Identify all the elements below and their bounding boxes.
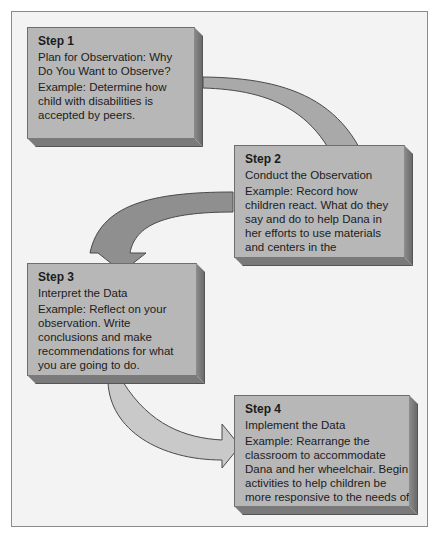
step-4-title: Step 4 [245,402,401,417]
arrow-step3-to-step4 [108,382,240,468]
step-2-box: Step 2 Conduct the Observation Example: … [234,145,405,258]
step-1-example: Example: Determine how child with disabi… [38,80,180,122]
step-3-subtitle: Interpret the Data [38,286,188,300]
step-1-subtitle: Plan for Observation: Why Do You Want to… [38,50,188,78]
arrow-step2-to-step3 [90,192,233,272]
step-4-example: Example: Rearrange the classroom to acco… [245,434,411,518]
step-1-title: Step 1 [38,34,186,49]
step-1-box: Step 1 Plan for Observation: Why Do You … [27,27,195,139]
step-2-subtitle: Conduct the Observation [245,168,396,182]
step-4-box: Step 4 Implement the Data Example: Rearr… [234,395,410,507]
step-2-title: Step 2 [245,152,396,167]
step-3-example: Example: Reflect on your observation. Wr… [38,302,188,372]
step-3-title: Step 3 [38,270,188,285]
step-4-subtitle: Implement the Data [245,418,401,432]
step-2-example: Example: Record how children react. What… [245,184,395,268]
step-3-box: Step 3 Interpret the Data Example: Refle… [27,263,197,376]
